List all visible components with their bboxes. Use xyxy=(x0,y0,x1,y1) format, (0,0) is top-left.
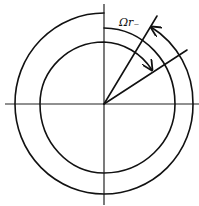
inner-spiral-arc xyxy=(40,28,175,173)
spiral-diagram: Ωr₋ xyxy=(0,0,199,206)
angle-label: Ωr₋ xyxy=(118,16,139,29)
